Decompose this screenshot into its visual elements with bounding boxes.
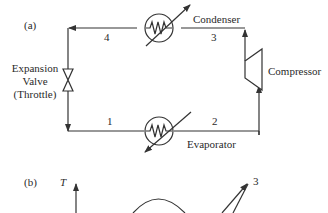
evaporator-label: Evaporator [187,138,236,150]
panel-a-label: (a) [24,19,37,32]
refrigeration-cycle-figure: (a) Condenser 3 4 Compressor Expansion V… [0,0,328,213]
process-lines [222,184,248,213]
t-axis-label: T [60,176,67,188]
condenser-icon [145,5,190,46]
expansion-label-line1: Expansion [12,62,59,74]
expansion-valve-icon [63,69,73,91]
condenser-label: Condenser [193,13,240,25]
state-4-label: 4 [104,31,110,43]
compressor-icon [245,49,262,90]
state-1-label: 1 [107,115,113,127]
expansion-label-line3: (Throttle) [14,88,57,101]
t-diagram-state-3-label: 3 [253,175,259,187]
state-3-label: 3 [211,31,217,43]
evaporator-icon [145,112,191,152]
compressor-label: Compressor [268,65,322,77]
expansion-label-line2: Valve [22,75,47,87]
saturation-dome [133,199,185,213]
state-2-label: 2 [212,115,218,127]
figure-canvas: (a) Condenser 3 4 Compressor Expansion V… [0,0,328,213]
panel-b-label: (b) [24,176,37,189]
